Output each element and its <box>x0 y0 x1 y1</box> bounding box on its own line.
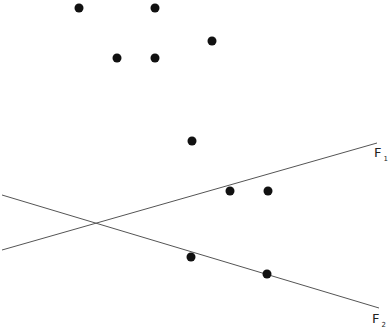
line-f2 <box>2 195 379 308</box>
line-label-f1: F1 <box>374 146 388 163</box>
diagram-canvas: F1 F2 <box>0 0 390 331</box>
point-5 <box>151 54 160 63</box>
point-8 <box>264 187 273 196</box>
point-4 <box>113 54 122 63</box>
line-label-f2: F2 <box>372 312 386 329</box>
point-1 <box>75 4 84 13</box>
point-2 <box>151 4 160 13</box>
point-3 <box>208 37 217 46</box>
point-10 <box>263 270 272 279</box>
point-9 <box>187 253 196 262</box>
point-6 <box>188 137 197 146</box>
line-f1 <box>2 143 377 250</box>
diagram-svg <box>0 0 390 331</box>
point-7 <box>226 187 235 196</box>
